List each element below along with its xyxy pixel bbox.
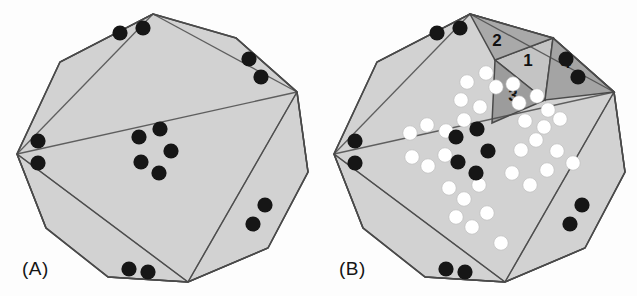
white-marker-dot [420,118,434,132]
black-marker-dot [450,154,465,169]
triangle-number-1: 1 [523,51,532,70]
black-marker-dot [562,216,577,231]
figure-canvas: 1234 (A) (B) [0,0,637,296]
white-marker-dot [457,113,471,127]
white-marker-dot [438,148,452,162]
white-marker-dot [454,93,468,107]
white-marker-dot [494,236,508,250]
white-marker-dot [512,96,526,110]
black-marker-dot [480,143,495,158]
white-marker-dot [550,144,564,158]
black-marker-dot [429,25,444,40]
black-marker-dot [438,261,453,276]
white-marker-dot [514,143,528,157]
black-marker-dot [30,155,45,170]
numbered-triangle-4 [545,38,614,100]
white-marker-dot [480,206,494,220]
white-marker-dot [473,100,487,114]
panel-b-label: (B) [339,258,366,280]
white-marker-dot [403,126,417,140]
white-marker-dot [505,166,519,180]
white-marker-dot [457,192,471,206]
white-marker-dot [421,159,435,173]
decagon-triangulation-figure: 1234 [0,0,637,296]
white-marker-dot [518,114,532,128]
black-marker-dot [347,155,362,170]
white-marker-dot [460,75,474,89]
white-marker-dot [442,181,456,195]
panel-a-label: (A) [22,258,49,280]
white-marker-dot [529,133,543,147]
white-marker-dot [523,178,537,192]
black-marker-dot [30,133,45,148]
black-marker-dot [558,51,573,66]
black-marker-dot [131,129,146,144]
black-marker-dot [133,154,148,169]
triangle-number-2: 2 [492,31,501,50]
black-marker-dot [448,129,463,144]
panel-b: 1234 [334,14,625,282]
black-marker-dot [245,216,260,231]
black-marker-dot [253,69,268,84]
black-marker-dot [469,121,484,136]
white-marker-dot [537,120,551,134]
white-marker-dot [479,66,493,80]
white-marker-dot [540,163,554,177]
black-marker-dot [135,20,150,35]
white-marker-dot [553,112,567,126]
white-marker-dot [405,150,419,164]
black-marker-dot [140,264,155,279]
black-marker-dot [452,20,467,35]
black-marker-dot [163,143,178,158]
black-marker-dot [241,51,256,66]
black-marker-dot [257,197,272,212]
white-marker-dot [541,103,555,117]
white-marker-dot [566,156,580,170]
black-marker-dot [574,197,589,212]
white-marker-dot [506,77,520,91]
panel-a [17,14,308,282]
white-marker-dot [530,89,544,103]
black-marker-dot [112,25,127,40]
black-marker-dot [570,69,585,84]
black-marker-dot [152,121,167,136]
white-marker-dot [465,220,479,234]
black-marker-dot [121,261,136,276]
white-marker-dot [489,80,503,94]
white-marker-dot [449,210,463,224]
black-marker-dot [151,165,166,180]
black-marker-dot [347,133,362,148]
black-marker-dot [468,165,483,180]
black-marker-dot [457,264,472,279]
